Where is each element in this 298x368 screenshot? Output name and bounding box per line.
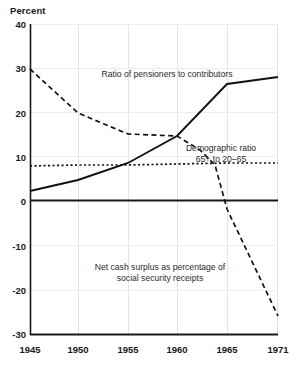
- series-pensioners-to-contributors: [30, 77, 278, 191]
- annotation-demographic-ratio: Demographic ratio 65+ to 20–65: [166, 143, 276, 164]
- percent-line-chart: Percent 40 30 20 10 0 -10 -20 -30 1945 1…: [0, 0, 298, 368]
- annotation-pensioners: Ratio of pensioners to contributors: [84, 69, 250, 80]
- annotation-net-cash-surplus: Net cash surplus as percentage of social…: [60, 262, 260, 283]
- plot-area: [0, 0, 298, 368]
